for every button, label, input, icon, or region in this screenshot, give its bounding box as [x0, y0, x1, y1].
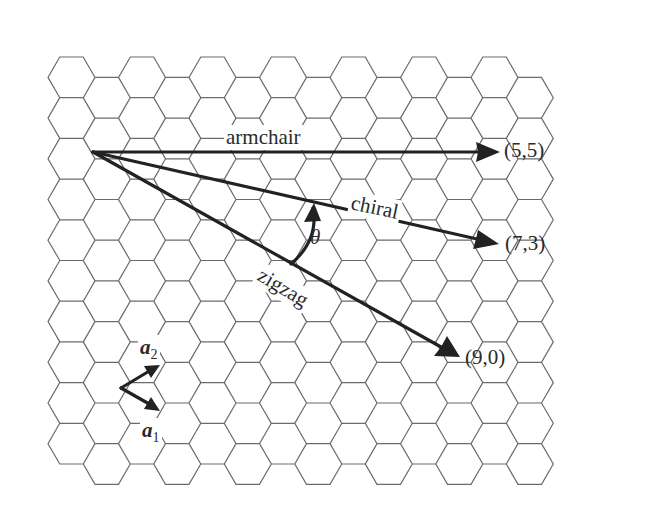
hexagon-cells	[48, 57, 553, 484]
a2-vector	[121, 370, 151, 388]
armchair-arrowhead-icon	[476, 142, 500, 162]
armchair-endpoint-label: (5,5)	[504, 138, 544, 163]
theta-label: θ	[310, 225, 320, 250]
zigzag-endpoint-label: (9,0)	[465, 345, 505, 370]
armchair-label: armchair	[224, 125, 303, 150]
chiral-arrowhead-icon	[473, 230, 499, 249]
a1-vector	[121, 388, 151, 405]
chiral-endpoint-label: (7,3)	[505, 231, 545, 256]
chiral-vector	[93, 152, 477, 239]
honeycomb-lattice	[48, 57, 553, 484]
a2-label: a2	[138, 335, 160, 363]
diagram-canvas: armchair (5,5) chiral (7,3) zigzag (9,0)…	[0, 0, 657, 510]
zigzag-vector	[93, 152, 441, 347]
lattice-diagram	[0, 0, 657, 510]
a1-label: a1	[140, 418, 162, 446]
theta-arrowhead-icon	[304, 203, 321, 222]
